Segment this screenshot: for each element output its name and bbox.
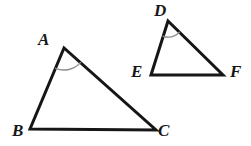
vertex-label-f: F xyxy=(230,63,241,80)
vertex-label-e: E xyxy=(131,63,142,80)
geometry-canvas xyxy=(0,0,251,146)
vertex-label-a: A xyxy=(38,31,49,48)
angle-arc-a xyxy=(55,63,80,70)
geometry-figure: A B C D E F xyxy=(0,0,251,146)
vertex-label-c: C xyxy=(158,122,169,139)
triangle-def-outline xyxy=(151,21,223,75)
vertex-label-d: D xyxy=(154,2,166,19)
vertex-label-b: B xyxy=(12,122,23,139)
triangle-abc-outline xyxy=(30,48,156,130)
